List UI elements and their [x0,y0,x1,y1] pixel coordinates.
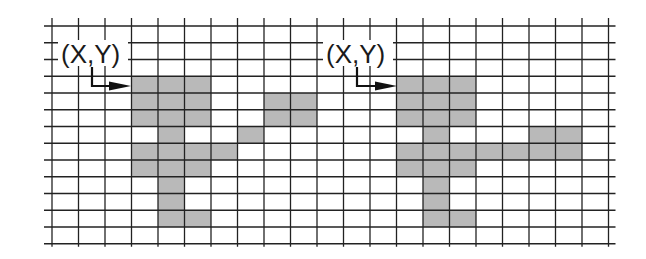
coordinate-labels: (X,Y) (X,Y) [58,39,397,91]
shaded-cell [132,160,159,177]
shaded-cell [476,143,503,160]
shaded-cell [423,76,450,93]
shaded-cell [185,160,212,177]
shaded-cell [132,76,159,93]
pixel-grid-diagram: (X,Y) (X,Y) [0,0,646,259]
shaded-cell [397,76,424,93]
shaded-cell [450,143,477,160]
shaded-cell [264,110,291,127]
shaded-cell [132,143,159,160]
right-xy-label: (X,Y) [326,39,385,69]
shaded-cell [185,110,212,127]
shaded-cell [423,210,450,227]
shaded-cell [397,160,424,177]
shaded-cell [158,110,185,127]
shaded-cell [423,194,450,211]
left-shape-annotation: (X,Y) [58,39,131,91]
shaded-cell [450,160,477,177]
shaded-cell [158,177,185,194]
shaded-cell [158,194,185,211]
shaded-cell [158,127,185,144]
shaded-cell [556,143,583,160]
shaded-cell [450,210,477,227]
shaded-cell [529,143,556,160]
shaded-cell [423,127,450,144]
shaded-cell [503,143,530,160]
shaded-cell [423,93,450,110]
shaded-cell [158,210,185,227]
shaded-cell [238,127,265,144]
shaded-cell [158,143,185,160]
right-arrowhead-icon [375,82,397,91]
shaded-cell [158,160,185,177]
shaded-cell [132,110,159,127]
shaded-cell [264,93,291,110]
shaded-cell [450,93,477,110]
shaded-cell [423,160,450,177]
shaded-cell [397,110,424,127]
shaded-cell [291,93,318,110]
shaded-cell [397,93,424,110]
shaded-cell [185,93,212,110]
left-xy-label: (X,Y) [61,39,120,69]
shaded-cell [158,76,185,93]
shaded-cells [132,76,583,227]
shaded-cell [423,177,450,194]
shaded-cell [211,143,238,160]
right-shape-annotation: (X,Y) [323,39,397,91]
shaded-cell [556,127,583,144]
shaded-cell [397,143,424,160]
shaded-cell [423,143,450,160]
shaded-cell [450,76,477,93]
shaded-cell [529,127,556,144]
shaded-cell [185,143,212,160]
shaded-cell [291,110,318,127]
shaded-cell [185,210,212,227]
shaded-cell [132,93,159,110]
shaded-cell [158,93,185,110]
shaded-cell [423,110,450,127]
left-arrowhead-icon [109,82,131,91]
shaded-cell [450,110,477,127]
shaded-cell [185,76,212,93]
